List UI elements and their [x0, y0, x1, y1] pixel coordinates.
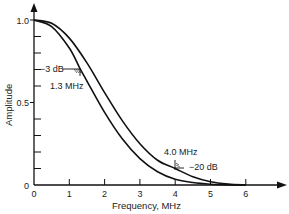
y-axis-arrow-icon — [31, 3, 38, 12]
y-ticks: 00.51.0 — [16, 16, 41, 191]
annotation-4-0-mhz: 4.0 MHz — [164, 147, 198, 157]
chart-canvas: 0123456 00.51.0 −3 dB 1.3 MHz 4.0 MHz −2… — [0, 0, 289, 214]
x-tick-label: 3 — [137, 189, 142, 199]
annotation-minus-20db: −20 dB — [189, 162, 218, 172]
x-axis-arrow-icon — [277, 182, 287, 189]
y-tick-label: 0.5 — [16, 98, 29, 108]
y-axis-label: Amplitude — [3, 84, 14, 126]
annotation-20db: 4.0 MHz −20 dB — [164, 147, 218, 172]
annotation-minus-3db: −3 dB — [40, 64, 64, 74]
x-tick-label: 2 — [102, 189, 107, 199]
x-tick-label: 4 — [173, 189, 178, 199]
curves — [34, 20, 246, 185]
x-tick-label: 6 — [243, 189, 248, 199]
x-axis-label: Frequency, MHz — [112, 200, 181, 211]
curve-outer — [34, 20, 246, 185]
x-tick-label: 5 — [208, 189, 213, 199]
y-tick-label: 0 — [24, 181, 29, 191]
x-tick-label: 1 — [67, 189, 72, 199]
annotation-1-3-mhz: 1.3 MHz — [50, 81, 84, 91]
curve-inner — [34, 20, 246, 185]
annotation-3db: −3 dB 1.3 MHz — [40, 64, 84, 91]
x-tick-label: 0 — [31, 189, 36, 199]
y-tick-label: 1.0 — [16, 16, 29, 26]
